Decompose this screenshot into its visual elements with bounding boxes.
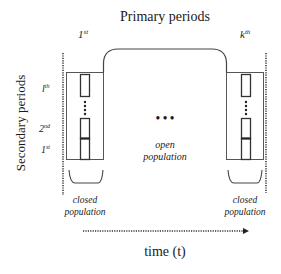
open-population-label-line2: population xyxy=(142,151,186,162)
secondary-box-1st-last xyxy=(242,139,251,160)
secondary-label-1st: 1st xyxy=(41,144,50,155)
secondary-box-lth-last xyxy=(242,75,251,97)
secondary-label-lth: lth xyxy=(42,83,49,94)
primary-label-last-sup: th xyxy=(245,28,251,36)
closed-population-label-last-line1: closed xyxy=(233,195,258,205)
secondary-box-2nd-first xyxy=(81,119,90,139)
secondary-periods-label: Secondary periods xyxy=(13,75,28,171)
primary-period-box-first xyxy=(67,73,104,160)
closed-population-bracket-first xyxy=(69,170,103,183)
secondary-box-2nd-last xyxy=(242,119,251,139)
closed-population-bracket-last xyxy=(228,170,262,183)
time-axis-label: time (t) xyxy=(144,244,186,260)
primary-label-first: 1st xyxy=(78,28,89,40)
secondary-label-2nd: 2nd xyxy=(39,123,51,134)
closed-population-label-last-line2: population xyxy=(223,207,265,217)
primary-label-last: kth xyxy=(240,28,251,40)
primary-period-box-last xyxy=(227,73,264,160)
closed-population-label-first-line2: population xyxy=(63,207,105,217)
closed-population-label-first-line1: closed xyxy=(73,195,98,205)
open-population-label-line1: open xyxy=(155,139,174,150)
time-arrow-head-icon xyxy=(243,228,249,234)
primary-label-first-sup: st xyxy=(84,28,90,36)
vertical-ellipsis-last xyxy=(245,101,247,115)
horizontal-ellipsis: • • • xyxy=(156,111,175,125)
secondary-box-1st-first xyxy=(81,139,90,160)
secondary-box-lth-first xyxy=(81,75,90,97)
vertical-ellipsis-first xyxy=(84,101,86,115)
robust-design-diagram: Primary periods 1st kth Secondary period… xyxy=(0,0,281,274)
open-population-arch xyxy=(104,49,227,73)
primary-periods-title: Primary periods xyxy=(120,9,210,24)
